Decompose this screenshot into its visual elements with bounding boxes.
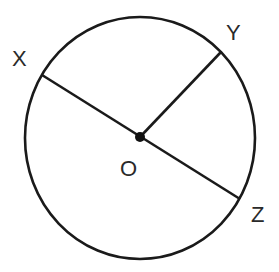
label-o: O (120, 156, 137, 181)
circle-diagram: X Y Z O (0, 0, 279, 272)
radius-oy (140, 52, 221, 137)
circle-figure: X Y Z O (0, 0, 279, 272)
center-point (135, 132, 145, 142)
label-z: Z (251, 202, 264, 227)
label-y: Y (226, 20, 241, 45)
label-x: X (12, 46, 27, 71)
